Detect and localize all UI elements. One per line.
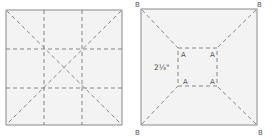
corner-label-bottom-right: B xyxy=(258,129,263,137)
left-square xyxy=(6,10,122,125)
corner-label-top-left: B xyxy=(135,1,140,9)
inner-label-top-left: A xyxy=(181,51,186,59)
dimension-label: 2¼" xyxy=(154,63,170,72)
corner-label-top-right: B xyxy=(257,1,262,9)
fold-diagram: B B B B A A A A 2¼" xyxy=(0,0,272,138)
inner-label-top-right: A xyxy=(210,51,215,59)
right-square: B B B B A A A A 2¼" xyxy=(135,1,263,137)
corner-label-bottom-left: B xyxy=(135,129,140,137)
inner-label-bottom-left: A xyxy=(183,78,188,86)
inner-label-bottom-right: A xyxy=(210,78,215,86)
